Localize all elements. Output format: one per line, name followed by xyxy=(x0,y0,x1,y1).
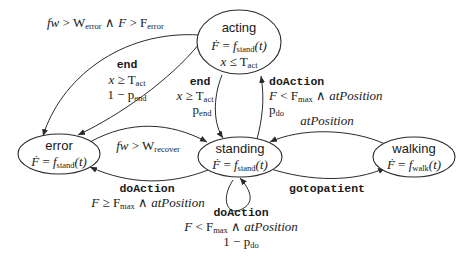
svg-text:gotopatient: gotopatient xyxy=(289,182,365,195)
svg-text:standing: standing xyxy=(215,141,264,156)
svg-text:F < Fmax ∧ atPosition: F < Fmax ∧ atPosition xyxy=(183,219,298,235)
svg-text:atPosition: atPosition xyxy=(300,113,353,128)
label-standing-to-error: doAction F ≥ Fmax ∧ atPosition xyxy=(90,182,204,211)
edge-standing-to-walking xyxy=(268,168,385,179)
svg-text:fw > Wrecover: fw > Wrecover xyxy=(116,138,180,154)
state-walking: walking Ḟ = fwalk(t) xyxy=(373,137,455,177)
svg-text:doAction: doAction xyxy=(119,182,174,195)
svg-text:F ≥ Fmax ∧ atPosition: F ≥ Fmax ∧ atPosition xyxy=(90,195,204,211)
svg-text:acting: acting xyxy=(222,20,257,35)
svg-text:walking: walking xyxy=(391,141,435,156)
svg-text:end: end xyxy=(190,75,211,88)
label-standing-to-walking: gotopatient xyxy=(289,182,365,195)
label-acting-to-error-end: end x ≥ Tact 1 − pend xyxy=(107,58,147,103)
svg-text:1 − pend: 1 − pend xyxy=(107,87,147,103)
state-standing: standing Ḟ = fstand(t) xyxy=(198,137,282,177)
svg-text:end: end xyxy=(117,58,138,71)
svg-text:error: error xyxy=(45,138,73,153)
svg-text:1 − pdo: 1 − pdo xyxy=(223,234,258,250)
edge-standing-to-error xyxy=(90,167,208,181)
state-acting: acting Ḟ = fstand(t) x ≤ Tact xyxy=(197,10,281,74)
svg-text:doAction: doAction xyxy=(269,75,324,88)
edge-standing-to-acting xyxy=(257,76,263,139)
svg-text:doAction: doAction xyxy=(213,206,268,219)
svg-text:pdo: pdo xyxy=(269,102,284,118)
label-walking-to-standing: atPosition xyxy=(300,113,353,128)
svg-text:x ≥ Tact: x ≥ Tact xyxy=(107,72,146,88)
edge-acting-to-standing-end xyxy=(215,75,223,138)
label-standing-self-loop: doAction F < Fmax ∧ atPosition 1 − pdo xyxy=(183,206,298,250)
label-error-to-standing: fw > Wrecover xyxy=(116,138,180,154)
label-acting-to-standing-end: end x ≥ Tact pend xyxy=(175,75,214,118)
svg-text:pend: pend xyxy=(193,102,213,118)
svg-text:fw > Werror ∧ F > Ferror: fw > Werror ∧ F > Ferror xyxy=(47,15,164,31)
label-standing-to-acting: doAction F < Fmax ∧ atPosition pdo xyxy=(268,75,383,118)
edge-walking-to-standing xyxy=(270,132,385,144)
svg-text:F < Fmax ∧ atPosition: F < Fmax ∧ atPosition xyxy=(268,88,383,104)
state-diagram: acting Ḟ = fstand(t) x ≤ Tact error Ḟ = … xyxy=(0,0,473,261)
state-error: error Ḟ = fstand(t) xyxy=(18,134,100,174)
label-acting-to-error-guard: fw > Werror ∧ F > Ferror xyxy=(47,15,164,31)
